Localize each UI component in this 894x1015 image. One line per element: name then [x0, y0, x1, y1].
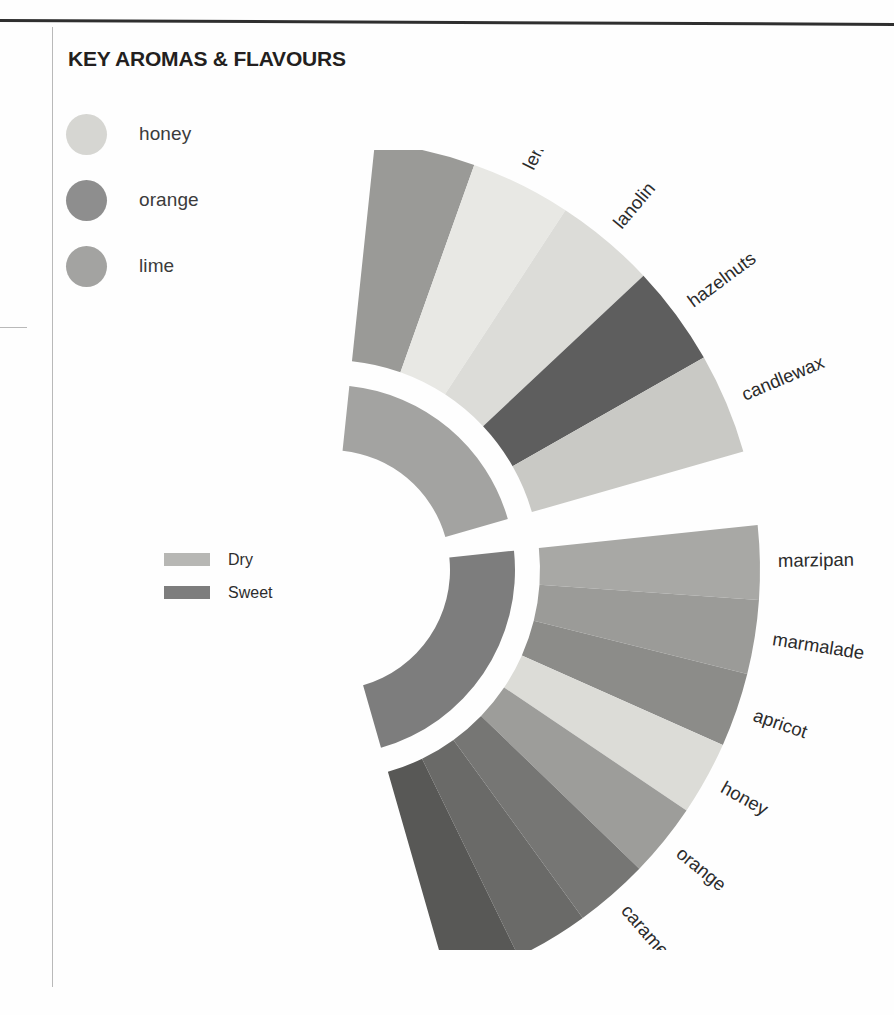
style-key-item-dry: Dry [164, 543, 272, 576]
fan-segment-label: toast [553, 948, 592, 950]
key-item-label: honey [139, 123, 191, 145]
fan-segment-label: apricot [751, 704, 810, 742]
fan-segment-label: orange [673, 843, 731, 896]
key-item-honey: honey [66, 101, 199, 167]
page-title: KEY AROMAS & FLAVOURS [68, 47, 346, 71]
key-item-label: lime [139, 255, 174, 277]
left-margin-rule [52, 27, 53, 987]
aroma-fan-chart: limelemonlanolinhazelnutscandlewaxmarzip… [300, 150, 894, 950]
key-item-lime: lime [66, 233, 199, 299]
colour-dot-icon [66, 180, 107, 221]
key-item-label: orange [139, 189, 199, 211]
style-key: Dry Sweet [164, 543, 272, 609]
colour-dot-icon [66, 114, 107, 155]
left-tick-rule [0, 327, 27, 328]
swatch-icon [164, 586, 210, 599]
poster-page: KEY AROMAS & FLAVOURS honey orange lime … [0, 0, 894, 1015]
colour-dot-icon [66, 246, 107, 287]
colour-key: honey orange lime [66, 101, 199, 299]
fan-segment-label: marzipan [778, 549, 854, 571]
fan-segment-label: lemon [518, 150, 559, 173]
key-item-orange: orange [66, 167, 199, 233]
fan-segment-label: caramel [617, 900, 676, 950]
fan-segment-label: hazelnuts [683, 247, 759, 311]
fan-segment-label: honey [718, 777, 773, 820]
swatch-icon [164, 553, 210, 566]
style-key-label: Sweet [228, 584, 272, 602]
fan-segment-label: candlewax [738, 351, 827, 405]
fan-segment-label: marmalade [771, 628, 866, 663]
top-divider-rule [0, 19, 894, 26]
style-key-label: Dry [228, 551, 253, 569]
style-key-item-sweet: Sweet [164, 576, 272, 609]
fan-segment-label: lanolin [609, 178, 659, 232]
